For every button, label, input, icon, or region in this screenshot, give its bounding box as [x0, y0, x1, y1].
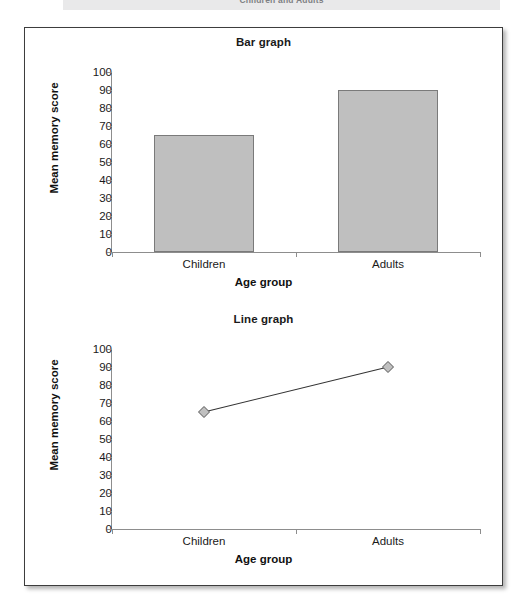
- y-axis-tick-mark: [107, 457, 112, 458]
- bar-chart-plot-area: 0102030405060708090100: [112, 72, 480, 252]
- y-axis-tick-label: 40: [66, 451, 112, 463]
- y-axis-tick-mark: [107, 385, 112, 386]
- y-axis-tick-label: 100: [66, 343, 112, 355]
- y-axis-tick-mark: [107, 144, 112, 145]
- y-axis-tick-label: 70: [66, 397, 112, 409]
- y-axis-tick-mark: [107, 90, 112, 91]
- line-chart-plot-area: 0102030405060708090100: [112, 349, 480, 529]
- y-axis-tick-mark: [107, 475, 112, 476]
- y-axis-tick-mark: [107, 198, 112, 199]
- y-axis-tick-mark: [107, 216, 112, 217]
- bar-chart-y-axis-label: Mean memory score: [48, 63, 60, 213]
- y-axis-tick-label: 100: [66, 66, 112, 78]
- x-axis-tick-mark: [480, 529, 481, 534]
- y-axis-tick-mark: [107, 367, 112, 368]
- x-axis-tick-mark: [112, 252, 113, 257]
- y-axis-tick-label: 70: [66, 120, 112, 132]
- line-chart-y-axis-label: Mean memory score: [48, 340, 60, 490]
- x-axis-category-label: Adults: [318, 258, 458, 270]
- line-chart: Line graph Mean memory score 01020304050…: [25, 313, 502, 561]
- bar-chart-title: Bar graph: [25, 36, 502, 48]
- y-axis-tick-label: 40: [66, 174, 112, 186]
- y-axis-tick-label: 80: [66, 102, 112, 114]
- x-axis-tick-mark: [480, 252, 481, 257]
- line-path: [204, 367, 388, 412]
- line-chart-title: Line graph: [25, 313, 502, 325]
- bar-chart-x-axis-label: Age group: [25, 276, 502, 288]
- bar-adults: [338, 90, 437, 252]
- y-axis-tick-label: 60: [66, 415, 112, 427]
- y-axis-tick-label: 90: [66, 84, 112, 96]
- y-axis-tick-label: 0: [66, 246, 112, 258]
- y-axis-tick-label: 10: [66, 228, 112, 240]
- y-axis-tick-label: 20: [66, 487, 112, 499]
- x-axis-tick-mark: [112, 529, 113, 534]
- x-axis-category-label: Children: [134, 258, 274, 270]
- y-axis-tick-mark: [107, 126, 112, 127]
- y-axis-tick-mark: [107, 72, 112, 73]
- y-axis-tick-label: 10: [66, 505, 112, 517]
- y-axis-tick-label: 20: [66, 210, 112, 222]
- y-axis-tick-label: 80: [66, 379, 112, 391]
- y-axis-tick-label: 0: [66, 523, 112, 535]
- data-point-marker-adults: [383, 362, 394, 373]
- y-axis-tick-label: 30: [66, 469, 112, 481]
- y-axis-tick-mark: [107, 108, 112, 109]
- running-head-text: Children and Adults: [239, 0, 323, 5]
- data-point-marker-children: [199, 407, 210, 418]
- y-axis-tick-label: 90: [66, 361, 112, 373]
- line-series: [112, 349, 480, 529]
- figure-panel: Bar graph Mean memory score 010203040506…: [24, 27, 503, 586]
- y-axis-tick-mark: [107, 180, 112, 181]
- y-axis-tick-mark: [107, 162, 112, 163]
- x-axis-category-label: Adults: [318, 535, 458, 547]
- y-axis-tick-label: 60: [66, 138, 112, 150]
- running-head-banner: Children and Adults: [63, 0, 500, 10]
- x-axis-category-label: Children: [134, 535, 274, 547]
- y-axis-tick-mark: [107, 349, 112, 350]
- x-axis-tick-mark: [296, 252, 297, 257]
- y-axis-tick-label: 50: [66, 433, 112, 445]
- y-axis-tick-label: 30: [66, 192, 112, 204]
- x-axis-tick-mark: [296, 529, 297, 534]
- y-axis-tick-mark: [107, 403, 112, 404]
- y-axis-tick-mark: [107, 511, 112, 512]
- y-axis-tick-label: 50: [66, 156, 112, 168]
- y-axis-tick-mark: [107, 439, 112, 440]
- bar-chart: Bar graph Mean memory score 010203040506…: [25, 36, 502, 284]
- y-axis-tick-mark: [107, 234, 112, 235]
- line-chart-x-axis-label: Age group: [25, 553, 502, 565]
- y-axis-tick-mark: [107, 493, 112, 494]
- bar-children: [154, 135, 253, 252]
- y-axis-tick-mark: [107, 421, 112, 422]
